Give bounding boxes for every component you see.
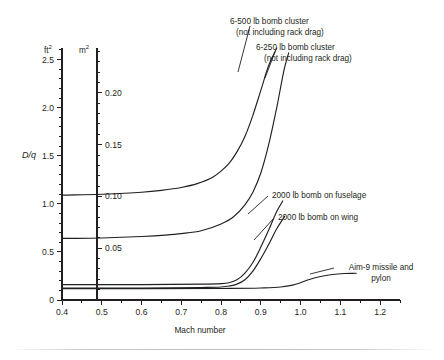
x-tick-label: 1.0 — [295, 307, 307, 317]
x-tick-label: 1.2 — [374, 307, 386, 317]
y-tick-label-primary: 1.5 — [42, 151, 54, 161]
curve-4 — [62, 273, 356, 288]
x-tick-label: 0.6 — [136, 307, 148, 317]
annotation-aim9-line1: Aim-9 missile and — [349, 262, 414, 273]
footer-divider — [8, 349, 436, 350]
y-tick-label-secondary: 0.05 — [105, 243, 122, 253]
y-tick-label-primary: 2.0 — [42, 103, 54, 113]
annotation-6-500-cluster-line1: 6-500 lb bomb cluster — [230, 16, 309, 27]
y-axis-unit-primary: ft2 — [44, 44, 52, 55]
annotation-2000lb-wing: 2000 lb bomb on wing — [278, 212, 358, 223]
annotation-aim9-line2: pylon — [371, 273, 391, 284]
x-axis-title: Mach number — [174, 325, 225, 335]
x-tick-label: 1.1 — [334, 307, 346, 317]
chart-axes: 0.40.50.60.70.80.91.01.11.200.51.01.52.0… — [42, 48, 400, 317]
y-tick-label-primary: 0.5 — [42, 247, 54, 257]
leader-2000lb-fuselage — [248, 196, 268, 214]
y-tick-label-primary: 0 — [49, 295, 54, 305]
curve-3 — [62, 216, 285, 288]
annotation-6-250-cluster-line2: (not including rack drag) — [264, 53, 352, 64]
y-tick-label-secondary: 0.20 — [105, 88, 122, 98]
annotation-6-250-cluster-line1: 6-250 lb bomb cluster — [256, 42, 335, 53]
y-axis-unit-secondary: m2 — [79, 44, 89, 55]
y-tick-label-secondary: 0.15 — [105, 140, 122, 150]
y-tick-label-primary: 2.5 — [42, 55, 54, 65]
annotation-2000lb-fuselage: 2000 lb bomb on fuselage — [272, 190, 366, 201]
drag-vs-mach-chart: 0.40.50.60.70.80.91.01.11.200.51.01.52.0… — [0, 0, 444, 360]
annotation-6-500-cluster-line2: (not including rack drag) — [236, 27, 324, 38]
curve-2 — [62, 201, 283, 285]
x-tick-label: 0.4 — [56, 307, 68, 317]
y-tick-label-primary: 1.0 — [42, 199, 54, 209]
x-tick-label: 0.8 — [215, 307, 227, 317]
x-tick-label: 0.7 — [175, 307, 187, 317]
leader-2000lb-wing — [254, 218, 274, 240]
y-axis-title: D/q — [22, 150, 36, 160]
x-tick-label: 0.5 — [96, 307, 108, 317]
curve-1 — [62, 53, 289, 239]
x-tick-label: 0.9 — [255, 307, 267, 317]
leader-aim9 — [310, 268, 334, 274]
curve-0 — [62, 48, 277, 195]
